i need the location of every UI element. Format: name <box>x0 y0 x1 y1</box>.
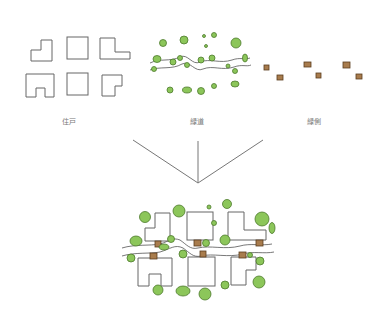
tree-icon <box>205 45 208 48</box>
diagram-canvas <box>0 0 384 309</box>
edge-box <box>304 62 311 67</box>
unit-square <box>187 212 213 240</box>
tree-icon <box>168 236 175 243</box>
edge-box <box>277 75 283 80</box>
tree-icon <box>231 38 241 48</box>
tree-icon <box>203 240 210 247</box>
composite-panel <box>122 200 275 301</box>
tree-icon <box>152 67 157 72</box>
tree-icon <box>243 54 248 62</box>
unit-square <box>67 73 88 95</box>
tree-icon <box>183 87 192 93</box>
connector-line <box>133 140 198 183</box>
converge-lines <box>133 140 263 183</box>
edge-box <box>194 240 201 246</box>
unit-square <box>67 37 88 59</box>
unit-u-shape <box>26 74 54 97</box>
tree-icon <box>253 276 265 288</box>
greenway-panel <box>150 33 251 95</box>
tree-icon <box>180 36 188 44</box>
label-edge: 緑側 <box>284 116 344 126</box>
tree-icon <box>179 250 187 258</box>
tree-icon <box>170 59 176 65</box>
edge-box <box>316 73 321 78</box>
tree-icon <box>203 35 206 38</box>
tree-icon <box>226 64 230 68</box>
tree-icon <box>160 40 167 47</box>
edge-box <box>356 74 362 79</box>
label-greenway: 緑道 <box>167 116 227 126</box>
edge-box <box>200 251 206 257</box>
tree-icon <box>255 212 269 226</box>
tree-icon <box>167 87 173 93</box>
tree-icon <box>140 212 151 223</box>
tree-icon <box>212 84 217 89</box>
unit-square <box>188 257 215 286</box>
unit-l-shape <box>102 75 122 96</box>
label-units: 住戸 <box>39 116 99 126</box>
edge-box <box>150 253 157 259</box>
tree-icon <box>248 253 253 258</box>
tree-icon <box>221 281 229 289</box>
tree-icon <box>153 56 161 63</box>
tree-icon <box>256 257 264 265</box>
edge-panel <box>264 62 362 80</box>
edge-box <box>239 252 246 258</box>
tree-icon <box>233 69 238 74</box>
tree-icon <box>198 88 205 95</box>
tree-icon <box>220 235 230 245</box>
tree-icon <box>207 205 211 209</box>
edge-box <box>256 240 263 246</box>
unit-l-shape <box>31 40 52 61</box>
tree-icon <box>178 56 183 61</box>
tree-icon <box>173 205 185 217</box>
tree-icon <box>130 236 142 246</box>
tree-icon <box>199 288 211 300</box>
units-panel <box>26 37 130 97</box>
edge-box <box>343 62 350 68</box>
connector-line <box>198 140 263 183</box>
edge-box <box>264 65 269 70</box>
unit-u-shape <box>138 258 172 286</box>
tree-icon <box>209 55 215 61</box>
tree-icon <box>159 244 169 250</box>
tree-icon <box>212 33 217 38</box>
tree-icon <box>231 81 239 87</box>
unit-l-shape <box>100 38 130 59</box>
tree-icon <box>269 223 275 234</box>
tree-icon <box>127 254 135 262</box>
tree-icon <box>223 200 232 209</box>
tree-icon <box>212 221 217 226</box>
tree-icon <box>153 285 163 295</box>
tree-icon <box>198 57 204 63</box>
tree-icon <box>185 63 190 68</box>
unit-l-shape <box>231 257 256 285</box>
tree-icon <box>176 286 190 296</box>
